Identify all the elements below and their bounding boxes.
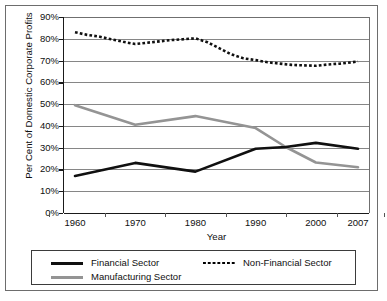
y-tick-label: 50% <box>40 99 59 109</box>
series-line-non-financial-sector <box>75 32 358 66</box>
y-tick-label: 30% <box>40 143 59 153</box>
legend-label: Manufacturing Sector <box>91 271 181 282</box>
x-tick-label: 1970 <box>125 217 146 228</box>
x-tick-label: 2000 <box>305 217 326 228</box>
y-tick-label: 80% <box>40 34 59 44</box>
x-tick-label: 1990 <box>245 217 266 228</box>
legend-line-mark <box>51 262 83 265</box>
series-layer <box>63 17 370 213</box>
y-tick-label: 10% <box>40 186 59 196</box>
y-tick-label: 70% <box>40 56 59 66</box>
legend-item-financial-sector[interactable]: Financial Sector <box>50 256 159 269</box>
legend-line-mark <box>51 276 83 279</box>
legend-item-manufacturing-sector[interactable]: Manufacturing Sector <box>50 270 181 283</box>
legend-line-mark <box>203 262 235 265</box>
legend-item-non-financial-sector[interactable]: Non-Financial Sector <box>202 256 332 269</box>
legend-swatch-icon <box>50 257 84 269</box>
y-tick-label: 40% <box>40 121 59 131</box>
legend-label: Financial Sector <box>91 257 159 268</box>
series-line-financial-sector <box>75 143 358 176</box>
x-tick-label: 1960 <box>64 217 85 228</box>
x-axis-tick-labels: 196019701980199020002007 <box>63 217 370 230</box>
x-tick-label: 2007 <box>347 217 368 228</box>
y-tick-label: 0% <box>45 208 59 218</box>
series-line-manufacturing-sector <box>75 105 358 167</box>
plot-area <box>63 17 370 213</box>
x-tick-mark <box>384 213 385 217</box>
legend-swatch-icon <box>50 271 84 283</box>
y-tick-label: 20% <box>40 164 59 174</box>
legend-swatch-icon <box>202 257 236 269</box>
x-tick-mark <box>49 213 50 217</box>
y-tick-label: 90% <box>40 12 59 22</box>
chart-legend: Financial SectorNon-Financial SectorManu… <box>31 250 356 285</box>
x-axis-title: Year <box>63 231 370 242</box>
y-tick-label: 60% <box>40 77 59 87</box>
legend-label: Non-Financial Sector <box>243 257 332 268</box>
x-tick-label: 1980 <box>185 217 206 228</box>
chart-figure: Per Cent of Domestic Corporate Profits 9… <box>5 5 378 291</box>
y-axis-tick-labels: 90%80%70%60%50%40%30%20%10%0% <box>20 17 59 213</box>
